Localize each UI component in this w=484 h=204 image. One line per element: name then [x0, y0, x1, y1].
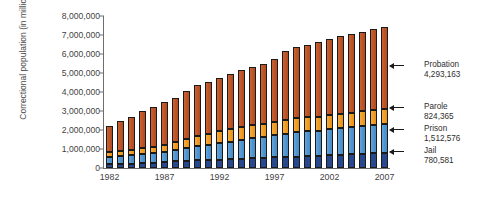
annotation-label: Parole [424, 102, 454, 112]
x-axis-tick-labels: 198219871992199720022007 [0, 0, 484, 204]
annotation-value: 824,365 [424, 112, 454, 122]
annotation-label: Jail [424, 146, 454, 156]
annotation-arrow-jail [390, 151, 404, 152]
y-axis-tick-mark [99, 92, 104, 93]
y-axis-tick-mark [99, 35, 104, 36]
annotation-value: 780,581 [424, 156, 454, 166]
annotation-label: Prison [424, 124, 460, 134]
annotation-arrow-parole [390, 107, 404, 108]
annotation-parole: Parole824,365 [424, 102, 454, 121]
x-axis-tick-label: 2002 [320, 172, 340, 182]
annotation-value: 1,512,576 [424, 134, 460, 144]
y-axis-tick-mark [99, 73, 104, 74]
x-axis-tick-label: 1987 [155, 172, 175, 182]
annotation-prison: Prison1,512,576 [424, 124, 460, 143]
stacked-bar-chart: Correctional population (in millions) 01… [0, 0, 484, 204]
annotation-arrow-probation [390, 65, 404, 66]
x-axis-tick-label: 2007 [375, 172, 395, 182]
x-axis-tick-label: 1982 [100, 172, 120, 182]
y-axis-tick-mark [99, 130, 104, 131]
annotation-label: Probation [424, 60, 460, 70]
y-axis-tick-mark [99, 149, 104, 150]
y-axis-tick-mark [99, 16, 104, 17]
annotation-jail: Jail780,581 [424, 146, 454, 165]
x-axis-tick-label: 1997 [265, 172, 285, 182]
y-axis-tick-mark [99, 111, 104, 112]
x-axis-tick-label: 1992 [210, 172, 230, 182]
y-axis-tick-mark [99, 168, 104, 169]
annotation-arrow-prison [390, 129, 404, 130]
annotation-value: 4,293,163 [424, 70, 460, 80]
annotation-probation: Probation4,293,163 [424, 60, 460, 79]
y-axis-tick-mark [99, 54, 104, 55]
